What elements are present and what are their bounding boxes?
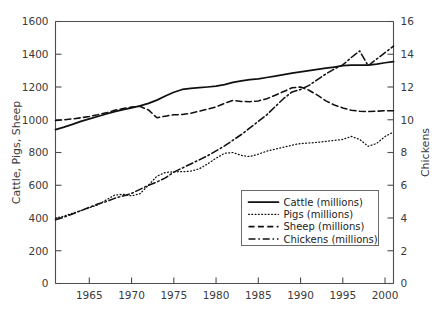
y-axis-right-tick-label: 0 [401, 277, 408, 289]
y-axis-right-tick-label: 16 [401, 15, 415, 27]
chart-legend: Cattle (millions)Pigs (millions)Sheep (m… [242, 191, 379, 246]
y-axis-left-tick-label: 400 [28, 212, 48, 224]
y-axis-left-tick-label: 1600 [22, 15, 49, 27]
x-axis-tick-label: 1990 [287, 289, 314, 301]
x-axis-tick-label: 1995 [329, 289, 356, 301]
y-axis-left-tick-label: 1200 [22, 81, 49, 93]
x-axis-tick-label: 1985 [245, 289, 272, 301]
x-axis-tick-label: 1965 [76, 289, 103, 301]
y-axis-right-tick-label: 4 [401, 212, 408, 224]
y-axis-right-title: Chickens [419, 128, 432, 177]
legend-entry-label: Pigs (millions) [284, 209, 354, 220]
y-axis-right-tick-label: 14 [401, 48, 415, 60]
series-line [56, 62, 394, 130]
y-axis-left-tick-label: 1000 [22, 114, 49, 126]
y-axis-left-tick-label: 800 [28, 146, 48, 158]
y-axis-right-ticks: 0246810121416 [388, 15, 415, 289]
x-axis-ticks: 19651970197519801985199019952000 [76, 278, 398, 301]
y-axis-right-tick-label: 8 [401, 146, 408, 158]
x-axis-tick-label: 1975 [160, 289, 187, 301]
x-axis-tick-label: 1980 [203, 289, 230, 301]
y-axis-left-tick-label: 0 [42, 277, 49, 289]
x-axis-tick-label: 2000 [372, 289, 399, 301]
y-axis-right-tick-label: 10 [401, 114, 414, 126]
y-axis-left-tick-label: 600 [28, 179, 48, 191]
legend-entry-label: Cattle (millions) [284, 197, 363, 208]
y-axis-right-tick-label: 6 [401, 179, 408, 191]
legend-entry-label: Chickens (millions) [284, 234, 378, 245]
x-axis-tick-label: 1970 [118, 289, 145, 301]
chart-container: 02004006008001000120014001600 0246810121… [0, 0, 443, 315]
y-axis-left-title: Cattle, Pigs, Sheep [10, 101, 23, 205]
legend-entry-label: Sheep (millions) [284, 221, 365, 232]
y-axis-left-tick-label: 200 [28, 245, 48, 257]
y-axis-right-tick-label: 2 [401, 245, 408, 257]
y-axis-right-tick-label: 12 [401, 81, 414, 93]
line-chart: 02004006008001000120014001600 0246810121… [0, 0, 443, 315]
series-line [56, 87, 394, 121]
y-axis-left-tick-label: 1400 [22, 48, 49, 60]
